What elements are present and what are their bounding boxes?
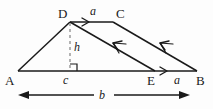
segment-right-side-cb — [113, 22, 197, 71]
vertex-label-a: A — [5, 74, 14, 87]
vertex-label-d: D — [58, 7, 67, 20]
segment-label-c: c — [63, 74, 68, 86]
dimension-arrowhead-right-icon — [179, 91, 190, 99]
height-label-h: h — [74, 41, 80, 53]
geometry-figure: D C A B E a a b c h — [0, 0, 213, 109]
segment-left-side-ad — [18, 22, 70, 71]
vertex-label-c: C — [116, 7, 125, 20]
figure-canvas — [0, 0, 213, 109]
side-label-dc-a: a — [90, 5, 96, 17]
arrow-marker-cb-icon-inner — [160, 43, 173, 53]
segment-diagonal-de — [70, 22, 155, 71]
right-angle-marker — [70, 64, 77, 71]
vertex-label-e: E — [147, 74, 155, 87]
dimension-arrowhead-left-icon — [18, 91, 29, 99]
vertex-label-b: B — [196, 74, 205, 87]
base-label-b: b — [99, 89, 105, 101]
side-label-eb-a: a — [174, 74, 180, 86]
